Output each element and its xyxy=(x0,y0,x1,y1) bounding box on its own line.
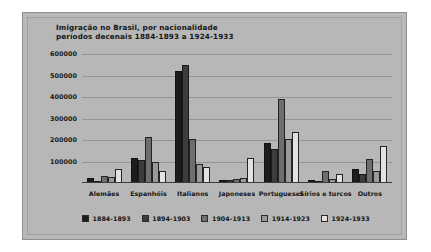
bar-group-bars xyxy=(303,54,347,183)
bar xyxy=(182,65,189,183)
x-axis-baseline xyxy=(82,182,392,183)
legend-item: 1924-1933 xyxy=(321,215,370,222)
chart-title-line-1: Imigração no Brasil, por nacionalidade xyxy=(56,23,356,32)
bar xyxy=(203,167,210,183)
bar-group-bars xyxy=(171,54,215,183)
bar-group: Sírios e turcos xyxy=(303,54,347,183)
bar xyxy=(145,137,152,183)
x-axis-category-label: Portugueses xyxy=(259,190,304,197)
legend-label: 1884-1893 xyxy=(93,215,131,222)
bar xyxy=(247,158,254,183)
legend-label: 1924-1933 xyxy=(331,215,369,222)
bar xyxy=(264,143,271,183)
bar xyxy=(366,159,373,183)
bar-group: Outros xyxy=(348,54,392,183)
x-axis-category-label: Sírios e turcos xyxy=(300,190,352,197)
x-axis-category-label: Alemães xyxy=(89,190,120,197)
bar xyxy=(131,158,138,183)
bar xyxy=(175,71,182,183)
bar-group-bars xyxy=(348,54,392,183)
legend-item: 1884-1893 xyxy=(82,215,131,222)
y-axis-tick-label: 100000 xyxy=(50,158,77,166)
chart-title-line-2: períodos decenais 1884-1893 a 1924-1933 xyxy=(56,32,356,41)
y-axis-tick-label: 400000 xyxy=(50,93,77,101)
x-axis-category-label: Japoneses xyxy=(219,190,256,197)
bar-group-bars xyxy=(82,54,126,183)
bar xyxy=(189,139,196,183)
legend-swatch xyxy=(321,215,328,222)
bar xyxy=(152,162,159,184)
bar xyxy=(278,99,285,183)
bar xyxy=(271,149,278,183)
bar-group-bars xyxy=(215,54,259,183)
bar xyxy=(285,139,292,183)
bar xyxy=(138,160,145,183)
bar-group: Espanhóis xyxy=(126,54,170,183)
bar-group: Japoneses xyxy=(215,54,259,183)
bar-group: Italianos xyxy=(171,54,215,183)
y-axis-tick-label: 500000 xyxy=(50,72,77,80)
x-axis-category-label: Espanhóis xyxy=(130,190,167,197)
legend-swatch xyxy=(261,215,268,222)
bar xyxy=(380,146,387,183)
bar-group-bars xyxy=(126,54,170,183)
y-axis-tick-label: 300000 xyxy=(50,115,77,123)
legend-label: 1904-1913 xyxy=(212,215,250,222)
legend-label: 1914-1923 xyxy=(272,215,310,222)
chart-legend: 1884-18931894-19031904-19131914-19231924… xyxy=(82,215,402,222)
y-axis-tick-label: 600000 xyxy=(50,50,77,58)
plot-area: 600000500000400000300000200000100000 Ale… xyxy=(82,54,392,183)
y-axis-tick-label: 200000 xyxy=(50,136,77,144)
chart-figure: Imigração no Brasil, por nacionalidade p… xyxy=(22,12,407,240)
bar-group: Alemães xyxy=(82,54,126,183)
legend-swatch xyxy=(201,215,208,222)
bar xyxy=(352,169,359,183)
bar xyxy=(292,132,299,183)
legend-label: 1894-1903 xyxy=(152,215,190,222)
legend-swatch xyxy=(142,215,149,222)
bar-group-bars xyxy=(259,54,303,183)
bar xyxy=(196,164,203,183)
legend-item: 1914-1923 xyxy=(261,215,310,222)
legend-swatch xyxy=(82,215,89,222)
legend-item: 1904-1913 xyxy=(201,215,250,222)
chart-title: Imigração no Brasil, por nacionalidade p… xyxy=(56,23,356,41)
bar xyxy=(115,169,122,183)
x-axis-category-label: Outros xyxy=(358,190,382,197)
bar-group: Portugueses xyxy=(259,54,303,183)
legend-item: 1894-1903 xyxy=(142,215,191,222)
x-axis-category-label: Italianos xyxy=(177,190,208,197)
